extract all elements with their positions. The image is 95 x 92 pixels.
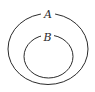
set-a-label: A <box>43 8 52 21</box>
set-a-ellipse <box>8 14 88 85</box>
venn-diagram: A B <box>0 0 95 92</box>
set-b-label: B <box>42 31 51 44</box>
